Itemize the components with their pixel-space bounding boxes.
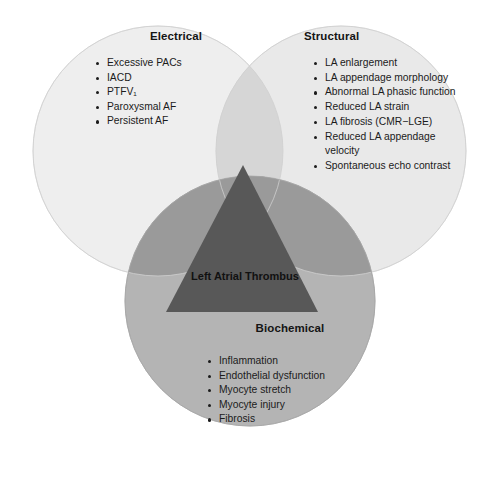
venn-set-structural-title: Structural	[304, 30, 492, 42]
venn-set-electrical-items: Excessive PACs IACD PTFV₁ Paroxysmal AF …	[94, 56, 274, 129]
list-item: PTFV₁	[94, 85, 274, 100]
venn-set-biochemical[interactable]: Biochemical Inflammation Endothelial dys…	[180, 322, 400, 427]
list-item: LA enlargement	[312, 56, 492, 71]
list-item: Myocyte injury	[206, 398, 400, 413]
list-item: Reduced LA strain	[312, 100, 492, 115]
venn-set-biochemical-items: Inflammation Endothelial dysfunction Myo…	[206, 354, 400, 427]
list-item: Endothelial dysfunction	[206, 369, 400, 384]
venn-set-electrical[interactable]: Electrical Excessive PACs IACD PTFV₁ Par…	[84, 30, 274, 129]
list-item: Inflammation	[206, 354, 400, 369]
list-item: Fibrosis	[206, 412, 400, 427]
venn-set-electrical-title: Electrical	[78, 30, 274, 42]
venn-diagram-figure: Electrical Excessive PACs IACD PTFV₁ Par…	[0, 0, 493, 477]
list-item: Spontaneous echo contrast	[312, 159, 492, 174]
list-item: Excessive PACs	[94, 56, 274, 71]
venn-set-biochemical-title: Biochemical	[180, 322, 400, 334]
list-item: IACD	[94, 71, 274, 86]
list-item: Persistent AF	[94, 114, 274, 129]
venn-set-structural[interactable]: Structural LA enlargement LA appendage m…	[292, 30, 492, 174]
list-item: Paroxysmal AF	[94, 100, 274, 115]
list-item: Abnormal LA phasic function	[312, 85, 492, 100]
list-item: Reduced LA appendage velocity	[312, 130, 441, 159]
center-intersection-label: Left Atrial Thrombus	[160, 270, 330, 282]
list-item: Myocyte stretch	[206, 383, 400, 398]
list-item: LA fibrosis (CMR−LGE)	[312, 115, 492, 130]
list-item: LA appendage morphology	[312, 71, 492, 86]
venn-set-structural-items: LA enlargement LA appendage morphology A…	[312, 56, 492, 174]
